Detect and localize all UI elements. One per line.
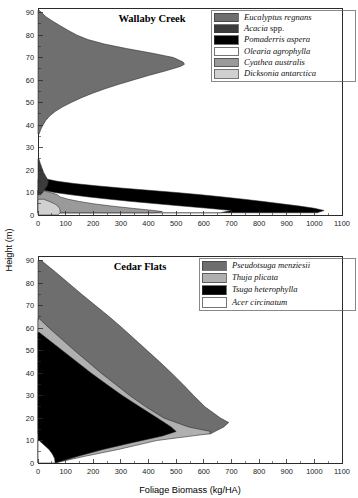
y-tick-label: 30 <box>26 391 34 400</box>
wallaby-creek-panel: 0100200300400500600700800900100011000102… <box>0 0 358 240</box>
y-tick-label: 90 <box>26 8 34 17</box>
x-tick-label: 300 <box>115 467 127 476</box>
x-tick-label: 1100 <box>334 467 350 476</box>
x-tick-label: 900 <box>281 467 293 476</box>
y-tick-label: 10 <box>26 436 34 445</box>
legend-label: Cyathea australis <box>244 57 306 67</box>
legend-swatch[interactable] <box>202 261 226 270</box>
x-tick-label: 100 <box>59 467 71 476</box>
x-tick-label: 500 <box>170 219 182 228</box>
x-tick-label: 500 <box>170 467 182 476</box>
x-tick-label: 0 <box>36 219 40 228</box>
x-tick-label: 1000 <box>306 219 322 228</box>
y-tick-label: 20 <box>26 414 34 423</box>
legend-swatch[interactable] <box>214 58 238 66</box>
x-tick-label: 1100 <box>334 219 350 228</box>
x-tick-label: 400 <box>142 219 154 228</box>
legend-label: Pomaderris aspera <box>243 34 310 44</box>
legend-label: Olearia agrophylla <box>244 46 310 56</box>
y-tick-label: 0 <box>30 211 34 220</box>
legend-label: Acer circinatum <box>231 297 287 307</box>
legend-label: Dicksonia antarctica <box>243 68 316 78</box>
x-tick-label: 200 <box>87 467 99 476</box>
legend-swatch[interactable] <box>202 286 226 295</box>
y-tick-label: 30 <box>26 143 34 152</box>
legend-label: Thuja plicata <box>232 272 278 282</box>
x-tick-label: 900 <box>281 219 293 228</box>
cedar-flats-title: Cedar Flats <box>114 261 167 272</box>
y-tick-label: 20 <box>26 166 34 175</box>
y-tick-label: 40 <box>26 369 34 378</box>
legend-swatch[interactable] <box>202 273 226 282</box>
wallaby-creek-title: Wallaby Creek <box>118 13 185 24</box>
y-tick-label: 70 <box>26 301 34 310</box>
x-tick-label: 100 <box>59 219 71 228</box>
y-tick-label: 10 <box>26 188 34 197</box>
legend-swatch[interactable] <box>214 25 238 33</box>
foliage-biomass-figure: 0100200300400500600700800900100011000102… <box>0 0 358 498</box>
x-tick-label: 600 <box>198 467 210 476</box>
x-axis-title: Foliage Biomass (kg/HA) <box>139 485 241 495</box>
legend-label: Tsuga heterophylla <box>232 284 298 294</box>
y-tick-label: 90 <box>26 256 34 265</box>
x-tick-label: 0 <box>36 467 40 476</box>
y-tick-label: 70 <box>26 53 34 62</box>
y-tick-label: 60 <box>26 76 34 85</box>
x-tick-label: 800 <box>253 467 265 476</box>
legend-swatch[interactable] <box>202 298 226 307</box>
x-tick-label: 300 <box>115 219 127 228</box>
y-tick-label: 40 <box>26 121 34 130</box>
x-tick-label: 400 <box>142 467 154 476</box>
x-tick-label: 700 <box>225 467 237 476</box>
y-tick-label: 50 <box>26 346 34 355</box>
y-tick-label: 60 <box>26 324 34 333</box>
wallaby-creek-svg: 0100200300400500600700800900100011000102… <box>0 0 358 240</box>
legend-label: Acacia spp. <box>243 23 284 33</box>
y-tick-label: 80 <box>26 279 34 288</box>
x-tick-label: 700 <box>225 219 237 228</box>
legend-swatch[interactable] <box>214 47 238 55</box>
y-tick-label: 50 <box>26 98 34 107</box>
legend-label: Pseudotsuga menziesii <box>231 260 311 270</box>
legend-swatch[interactable] <box>214 36 238 44</box>
x-tick-label: 800 <box>253 219 265 228</box>
y-tick-label: 0 <box>30 459 34 468</box>
x-tick-label: 1000 <box>306 467 322 476</box>
x-tick-label: 200 <box>87 219 99 228</box>
x-tick-label: 600 <box>198 219 210 228</box>
legend-label: Eucalyptus regnans <box>243 12 312 22</box>
cedar-flats-svg: 0100200300400500600700800900100011000102… <box>0 248 358 498</box>
legend-swatch[interactable] <box>214 70 238 78</box>
y-tick-label: 80 <box>26 31 34 40</box>
legend-swatch[interactable] <box>214 13 238 21</box>
cedar-flats-panel: 0100200300400500600700800900100011000102… <box>0 248 358 498</box>
